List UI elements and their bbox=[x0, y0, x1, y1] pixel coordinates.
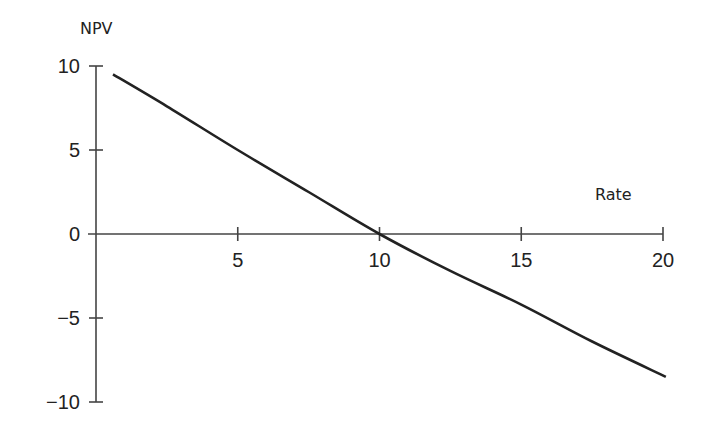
npv-curve bbox=[113, 74, 666, 376]
npv-chart: 1050−5−105101520 NPV Rate bbox=[0, 0, 701, 427]
x-tick-label: 15 bbox=[510, 249, 532, 271]
y-tick-label: 10 bbox=[58, 55, 80, 77]
y-tick-label: 0 bbox=[69, 223, 80, 245]
axes bbox=[88, 66, 663, 402]
x-tick-label: 10 bbox=[368, 249, 390, 271]
y-tick-label: −5 bbox=[57, 307, 80, 329]
x-tick-label: 20 bbox=[652, 249, 674, 271]
y-tick-label: 5 bbox=[69, 139, 80, 161]
y-tick-label: −10 bbox=[46, 391, 80, 413]
x-tick-label: 5 bbox=[232, 249, 243, 271]
x-axis-label: Rate bbox=[595, 185, 632, 204]
y-axis-label: NPV bbox=[80, 19, 113, 38]
